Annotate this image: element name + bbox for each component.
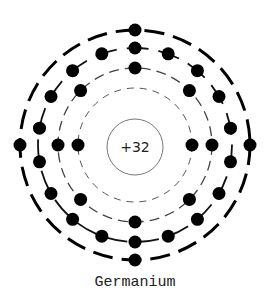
electron xyxy=(129,216,142,229)
electron xyxy=(95,230,108,243)
electron xyxy=(33,122,46,135)
electron xyxy=(213,90,226,103)
electron xyxy=(74,84,87,97)
electron xyxy=(74,193,87,206)
electron xyxy=(129,62,142,75)
electron xyxy=(66,213,79,226)
electron xyxy=(129,24,142,37)
element-name-label: Germanium xyxy=(94,274,175,291)
electron xyxy=(224,122,237,135)
electron xyxy=(162,230,175,243)
electron xyxy=(66,64,79,77)
electron xyxy=(183,193,196,206)
electron xyxy=(45,90,58,103)
electron xyxy=(33,155,46,168)
electron xyxy=(45,187,58,200)
electron xyxy=(183,84,196,97)
electron xyxy=(191,213,204,226)
electron xyxy=(191,64,204,77)
electron xyxy=(162,47,175,60)
electron xyxy=(129,42,142,55)
electron xyxy=(244,139,257,152)
electron xyxy=(14,139,27,152)
electron xyxy=(129,254,142,267)
nucleus-charge-label: +32 xyxy=(120,139,150,155)
electron xyxy=(224,155,237,168)
electron xyxy=(95,47,108,60)
electron xyxy=(52,139,65,152)
bohr-model-diagram: +32 Germanium xyxy=(0,0,272,297)
electron xyxy=(186,139,199,152)
nucleus: +32 xyxy=(107,119,163,175)
electron xyxy=(72,139,85,152)
electron xyxy=(129,236,142,249)
electron xyxy=(213,187,226,200)
electron xyxy=(206,139,219,152)
